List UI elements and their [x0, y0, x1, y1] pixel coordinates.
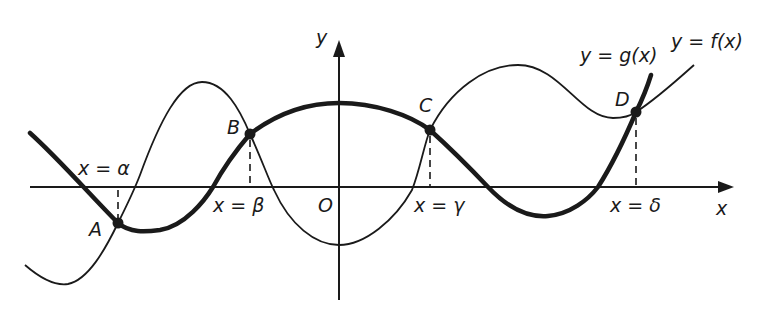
- curve-f-label: y = f(x): [670, 30, 743, 52]
- x-axis-label: x: [715, 197, 728, 219]
- point-c-label: C: [419, 94, 433, 116]
- curve-g: [30, 75, 651, 231]
- curve-g-label: y = g(x): [579, 44, 657, 66]
- x-delta-label: x = δ: [609, 194, 661, 216]
- y-axis-arrow-icon: [333, 40, 345, 57]
- x-alpha-label: x = α: [77, 157, 130, 179]
- x-gamma-label: x = γ: [413, 194, 466, 216]
- origin-label: O: [318, 194, 333, 216]
- point-d: [631, 107, 642, 118]
- point-a-label: A: [87, 218, 102, 240]
- intersection-diagram: A B C D x = α x = β x = γ x = δ x y O y …: [0, 0, 773, 312]
- point-b-label: B: [227, 116, 240, 138]
- x-beta-label: x = β: [212, 194, 264, 216]
- point-a: [113, 218, 124, 229]
- x-axis-arrow-icon: [718, 181, 734, 193]
- point-d-label: D: [615, 88, 630, 110]
- point-c: [425, 125, 436, 136]
- y-axis-label: y: [315, 26, 328, 48]
- point-b: [245, 129, 256, 140]
